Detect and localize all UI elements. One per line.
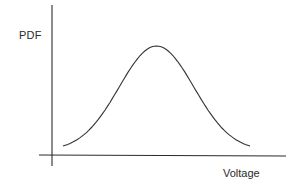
y-axis-label: PDF — [19, 29, 42, 41]
x-axis — [39, 155, 286, 156]
chart-canvas — [0, 0, 292, 187]
pdf-curve — [63, 46, 250, 146]
x-axis-label: Voltage — [223, 167, 260, 179]
pdf-chart: PDF Voltage — [0, 0, 292, 187]
